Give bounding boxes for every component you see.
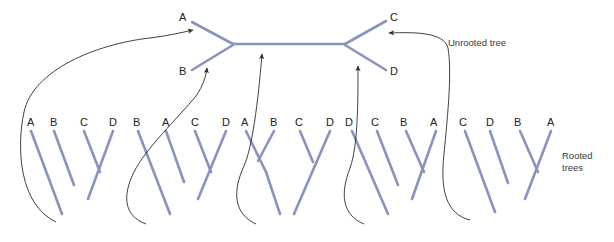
tree5-tip-label-1: C bbox=[459, 117, 467, 128]
t4-tip-C bbox=[377, 131, 398, 185]
t5-tip-C bbox=[465, 131, 495, 212]
t5-tip-B bbox=[520, 131, 538, 172]
unrooted-branch-A bbox=[192, 22, 233, 44]
tree4-tip-label-2: C bbox=[371, 117, 379, 128]
t1-tip-D bbox=[88, 131, 113, 199]
tree2-tip-label-1: B bbox=[133, 117, 140, 128]
tree5-tip-label-3: B bbox=[514, 117, 521, 128]
t2-tip-D bbox=[198, 131, 226, 199]
rooted-trees-annotation-line1: Rooted bbox=[562, 150, 593, 162]
rooted-tree-1-branches bbox=[31, 131, 113, 214]
tree3-tip-label-2: B bbox=[270, 117, 277, 128]
t4-tip-A bbox=[412, 131, 436, 199]
rooted-tree-3-branches bbox=[246, 131, 330, 214]
t3-tip-B bbox=[258, 131, 274, 161]
t1-tip-C bbox=[84, 131, 100, 172]
tree2-tip-label-4: D bbox=[222, 117, 230, 128]
t1-tip-B bbox=[54, 131, 74, 185]
tree1-tip-label-2: B bbox=[50, 117, 57, 128]
t2-tip-A bbox=[166, 131, 184, 182]
t3-node-left bbox=[266, 172, 280, 214]
tree1-tip-label-3: C bbox=[80, 117, 88, 128]
figure-canvas: A B C D A B C D B A C D A B C D D C B A … bbox=[0, 0, 614, 242]
rooted-trees-annotation-line2: trees bbox=[562, 162, 583, 174]
tree1-tip-label-4: D bbox=[109, 117, 117, 128]
tree3-tip-label-1: A bbox=[241, 117, 248, 128]
tree3-tip-label-3: C bbox=[295, 117, 303, 128]
unrooted-branch-C bbox=[345, 21, 386, 44]
tree4-tip-label-3: B bbox=[400, 117, 407, 128]
rooted-tree-5-branches bbox=[465, 131, 551, 212]
rooted-tree-4-branches bbox=[352, 131, 436, 214]
tree4-tip-label-1: D bbox=[345, 117, 353, 128]
t5-tip-D bbox=[490, 131, 508, 183]
arrow-branch-D-to-tree4 bbox=[344, 66, 364, 224]
unrooted-tree-branches bbox=[192, 21, 386, 70]
tree4-tip-label-4: A bbox=[430, 117, 437, 128]
tree2-tip-label-3: C bbox=[191, 117, 199, 128]
phylogenetic-tree-diagram bbox=[0, 0, 614, 242]
unrooted-branch-D bbox=[345, 45, 386, 70]
unrooted-tip-label-B: B bbox=[179, 66, 186, 77]
tree3-tip-label-4: D bbox=[326, 117, 334, 128]
unrooted-tip-label-D: D bbox=[390, 66, 398, 77]
t3-tip-D bbox=[294, 131, 330, 214]
rooted-tree-2-branches bbox=[138, 131, 226, 214]
t4-tip-B bbox=[406, 131, 424, 172]
tree5-tip-label-2: D bbox=[486, 117, 494, 128]
unrooted-branch-B bbox=[192, 45, 233, 70]
tree1-tip-label-1: A bbox=[27, 117, 34, 128]
t5-tip-A bbox=[525, 131, 551, 199]
unrooted-tree-annotation: Unrooted tree bbox=[448, 37, 506, 49]
t2-tip-C bbox=[195, 131, 211, 172]
tree2-tip-label-2: A bbox=[162, 117, 169, 128]
unrooted-tip-label-A: A bbox=[179, 12, 186, 23]
t3-tip-C bbox=[300, 131, 313, 162]
arrow-branch-B-to-tree2 bbox=[127, 68, 207, 224]
tree5-tip-label-4: A bbox=[547, 117, 554, 128]
unrooted-tip-label-C: C bbox=[390, 12, 398, 23]
